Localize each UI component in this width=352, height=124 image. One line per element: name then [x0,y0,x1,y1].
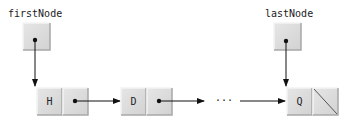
first-node-reference: firstNode [8,8,62,86]
first-node-label: firstNode [8,8,62,19]
node-data-cell: D [121,88,146,115]
last-node-box [274,23,301,50]
node-data-cell: Q [287,88,312,115]
node-value: H [46,96,52,107]
last-node-reference: lastNode [265,8,313,86]
node-value: D [130,96,136,107]
last-node-label: lastNode [265,8,313,19]
node-next-cell-null [313,88,338,115]
linked-list-diagram: firstNode lastNode H [0,0,352,124]
node-value: Q [296,96,302,107]
node-data-cell: H [37,88,62,115]
ellipsis-text: ··· [215,95,233,106]
first-node-box [23,23,50,50]
list-node-q: Q [287,88,338,115]
